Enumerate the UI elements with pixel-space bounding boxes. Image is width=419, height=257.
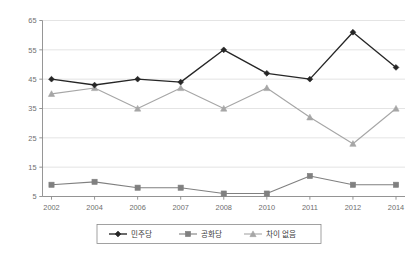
series-gonghwadang (49, 173, 399, 196)
y-tick-label-45: 45 (28, 75, 36, 84)
x-tick-label-2014: 2014 (388, 203, 404, 212)
data-point-2007 (178, 185, 183, 190)
x-tick-label-2002: 2002 (43, 203, 59, 212)
data-series-group (48, 29, 399, 196)
x-tick-label-2007: 2007 (172, 203, 188, 212)
series-line (52, 32, 397, 85)
x-tick-label-2012: 2012 (345, 203, 361, 212)
data-point-2002 (49, 182, 54, 187)
legend-label: 공화당 (201, 229, 222, 239)
data-point-2011 (307, 173, 312, 178)
chart-canvas: 6555453525155 20022004200620072008201020… (0, 0, 419, 257)
series-line (52, 88, 397, 144)
y-tick-label-5: 5 (32, 192, 36, 201)
data-point-2004 (92, 179, 97, 184)
x-tick-label-2004: 2004 (86, 203, 102, 212)
data-point-2010 (264, 191, 269, 196)
y-tick-label-65: 65 (28, 16, 36, 25)
data-point-2010 (264, 70, 270, 76)
y-tick-label-15: 15 (28, 163, 36, 172)
x-tick-label-2011: 2011 (302, 203, 318, 212)
data-point-2007 (178, 85, 184, 91)
data-point-2010 (264, 85, 270, 91)
y-axis-tick-labels: 6555453525155 (28, 16, 36, 201)
data-point-2006 (135, 76, 141, 82)
data-point-2008 (221, 191, 226, 196)
x-axis-tick-labels: 200220042006200720082010201120122014 (43, 203, 404, 212)
line-chart: 6555453525155 20022004200620072008201020… (0, 0, 419, 257)
series-chai-eopseum (48, 85, 399, 146)
data-point-2014 (393, 182, 398, 187)
x-tick-label-2008: 2008 (216, 203, 232, 212)
y-tick-label-35: 35 (28, 104, 36, 113)
data-point-2006 (135, 185, 140, 190)
data-point-2004 (92, 82, 98, 88)
legend-marker-icon (185, 231, 190, 236)
y-tick-label-55: 55 (28, 46, 36, 55)
legend-label: 민주당 (131, 229, 152, 239)
data-point-2012 (350, 182, 355, 187)
x-tick-label-2010: 2010 (259, 203, 275, 212)
y-tick-label-25: 25 (28, 134, 36, 143)
x-tick-label-2006: 2006 (129, 203, 145, 212)
legend-label: 차이 없음 (266, 229, 296, 239)
chart-legend: 민주당공화당차이 없음 (97, 225, 321, 244)
data-point-2002 (49, 76, 55, 82)
data-point-2011 (307, 114, 313, 120)
